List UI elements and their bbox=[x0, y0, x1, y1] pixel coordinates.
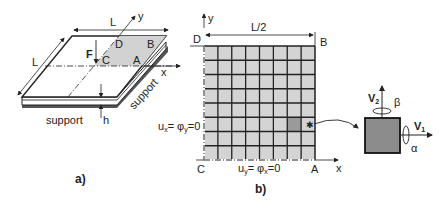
mesh-corner-d: D bbox=[193, 33, 201, 45]
corner-c-label: C bbox=[102, 54, 110, 66]
alpha-label: α bbox=[411, 142, 418, 154]
mesh-grid bbox=[204, 46, 315, 160]
highlighted-element bbox=[287, 117, 301, 131]
figure-canvas: x y L L D B C A F h support support a) bbox=[0, 0, 443, 208]
element-detail: V2 β V1 α bbox=[365, 86, 432, 154]
mesh-corner-c: C bbox=[197, 163, 205, 175]
caption-a: a) bbox=[75, 172, 86, 186]
axis-y-label: y bbox=[138, 10, 144, 22]
left-boundary-condition: ux= φy=0 bbox=[158, 120, 200, 134]
mesh-axis-y-label: y bbox=[208, 12, 214, 24]
corner-a-label: A bbox=[133, 54, 141, 66]
mesh-axis-x-label: x bbox=[336, 162, 342, 174]
corner-d-label: D bbox=[115, 38, 123, 50]
mesh-corner-a: A bbox=[311, 163, 319, 175]
dimension-top-label: L bbox=[110, 16, 116, 28]
panel-a-plate-diagram: x y L L D B C A F h support support a) bbox=[18, 10, 180, 186]
node-marker-icon: ✱ bbox=[306, 120, 314, 130]
thickness-label: h bbox=[103, 114, 109, 126]
element-square bbox=[365, 118, 400, 153]
bottom-boundary-condition: uy= φx=0 bbox=[238, 162, 280, 176]
support-front-label: support bbox=[46, 114, 83, 126]
corner-b-label: B bbox=[147, 38, 154, 50]
caption-b: b) bbox=[255, 182, 266, 196]
axis-y-arrow bbox=[119, 16, 135, 36]
v1-label: V1 bbox=[414, 120, 425, 133]
force-label: F bbox=[86, 48, 93, 60]
beta-label: β bbox=[394, 96, 400, 108]
v2-label: V2 bbox=[368, 92, 379, 105]
panel-b-mesh-diagram: y x L/2 D B C A ux= φy=0 uy= φx=0 ✱ b) bbox=[158, 12, 358, 196]
dimension-half-width-label: L/2 bbox=[251, 21, 266, 33]
detail-pointer-arrow bbox=[314, 120, 358, 128]
axis-x-label: x bbox=[161, 66, 167, 78]
dimension-side-label: L bbox=[32, 56, 38, 68]
mesh-corner-b: B bbox=[320, 36, 327, 48]
